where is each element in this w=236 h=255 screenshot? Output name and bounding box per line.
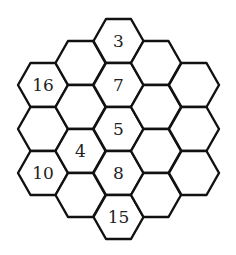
hex-label: 7: [113, 75, 124, 95]
hexagon-shape: [169, 107, 219, 151]
hex-label: 8: [113, 163, 124, 183]
hex-label: 5: [113, 119, 124, 139]
hexagon-shape: [169, 63, 219, 107]
hex-label: 3: [113, 31, 124, 51]
hex-label: 15: [108, 207, 130, 227]
hexagon-shape: [169, 151, 219, 195]
hex-cell[interactable]: [169, 107, 219, 151]
hex-cell[interactable]: [169, 151, 219, 195]
hex-cell[interactable]: [169, 63, 219, 107]
hex-label: 16: [32, 75, 54, 95]
hex-label: 4: [75, 141, 86, 161]
hex-grid-board: 16104375815: [0, 0, 236, 255]
hex-label: 10: [32, 163, 54, 183]
